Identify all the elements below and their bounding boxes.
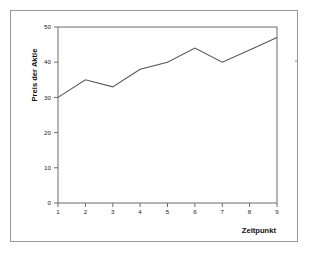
line-chart: 0 10 20 30 40 50 1 2 3 4 5 6 7: [0, 0, 312, 260]
x-tick-label: 3: [111, 208, 115, 215]
x-tick-label: 6: [193, 208, 197, 215]
plot-frame: [58, 27, 277, 203]
x-tick-label: 4: [138, 208, 142, 215]
clipped-caption-line: [0, 252, 312, 260]
x-tick-label: 7: [221, 208, 225, 215]
page-speck: [295, 60, 297, 62]
y-tick-label: 10: [44, 164, 51, 171]
x-axis-ticks: [58, 203, 277, 207]
y-tick-label: 20: [44, 129, 51, 136]
x-tick-label: 8: [248, 208, 252, 215]
x-axis-tick-labels: 1 2 3 4 5 6 7 8 9: [56, 208, 279, 215]
y-tick-label: 0: [48, 199, 52, 206]
y-tick-label: 30: [44, 94, 51, 101]
x-tick-label: 9: [275, 208, 279, 215]
y-axis-ticks: [54, 27, 58, 203]
chart-svg: 0 10 20 30 40 50 1 2 3 4 5 6 7: [0, 0, 312, 260]
x-tick-label: 2: [84, 208, 88, 215]
x-axis-title: Zeitpunkt: [242, 226, 277, 235]
y-tick-label: 40: [44, 58, 51, 65]
y-tick-label: 50: [44, 23, 51, 30]
x-tick-label: 5: [166, 208, 170, 215]
y-axis-tick-labels: 0 10 20 30 40 50: [44, 23, 51, 206]
y-axis-title: Preis der Aktie: [30, 49, 39, 102]
x-tick-label: 1: [56, 208, 60, 215]
data-series-line: [58, 38, 277, 98]
